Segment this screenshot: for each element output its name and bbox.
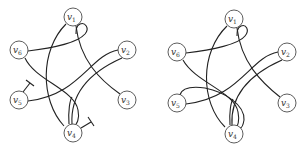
half-edge-v5: [23, 83, 30, 92]
node-v5-right: v5: [168, 94, 186, 112]
right-graph: [180, 26, 282, 128]
edge-v6-v4: [183, 60, 239, 126]
node-v3-left: v3: [118, 91, 136, 109]
node-v1-right: v1: [225, 10, 243, 28]
node-v2-right: v2: [278, 43, 296, 61]
graph-diagrams: v1 v2 v3 v4 v5 v6 v1 v2 v3 v4 v5: [0, 0, 304, 152]
edge-v1-v4: [206, 26, 227, 127]
edge-v2-v5: [186, 52, 278, 104]
half-edge-v5-cap: [26, 80, 34, 86]
half-edge-v4: [81, 122, 91, 128]
node-v5-left: v5: [10, 91, 28, 109]
edge-v1-v4: [46, 24, 66, 126]
node-v6-right: v6: [168, 43, 186, 61]
left-graph: [23, 24, 122, 128]
node-v3-right: v3: [278, 94, 296, 112]
node-v4-left: v4: [64, 124, 82, 142]
edge-v2-v4: [72, 58, 122, 124]
half-edge-v4-cap: [88, 117, 94, 126]
node-v4-right: v4: [225, 125, 243, 143]
node-v1-left: v1: [64, 8, 82, 26]
edge-v6-v4: [25, 58, 79, 124]
node-v6-left: v6: [10, 41, 28, 59]
node-v2-left: v2: [118, 41, 136, 59]
